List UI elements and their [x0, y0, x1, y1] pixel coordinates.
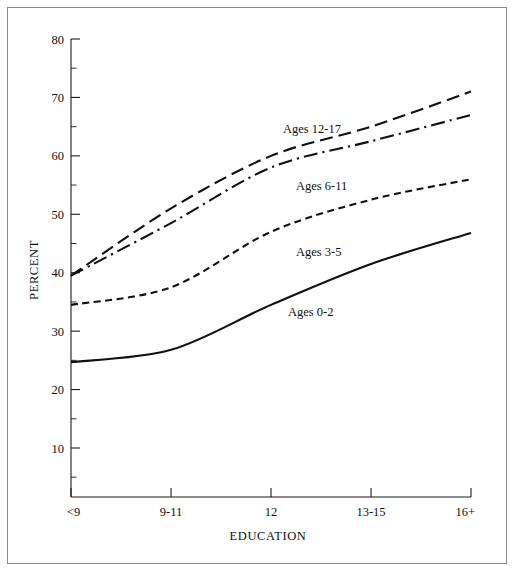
y-axis-ticks [71, 39, 80, 477]
x-axis-title: EDUCATION [230, 529, 307, 543]
series-lines [71, 92, 471, 363]
series-line-ages-12-17 [71, 92, 471, 276]
x-tick-label: 13-15 [356, 505, 385, 519]
x-tick-label: <9 [67, 505, 80, 519]
y-axis-tick-labels: 1020304050607080 [52, 33, 65, 456]
series-label-ages-6-11: Ages 6-11 [296, 179, 347, 193]
x-axis-ticks [71, 488, 471, 497]
line-chart-figure: 1020304050607080 <99-111213-1516+ Ages 1… [0, 0, 516, 576]
y-tick-label: 20 [52, 383, 65, 397]
series-label-ages-3-5: Ages 3-5 [296, 245, 341, 259]
series-label-ages-0-2: Ages 0-2 [288, 305, 333, 319]
series-label-ages-12-17: Ages 12-17 [283, 122, 341, 136]
figure-page: 1020304050607080 <99-111213-1516+ Ages 1… [0, 0, 516, 576]
y-axis-title: PERCENT [27, 240, 41, 300]
x-tick-label: 9-11 [160, 505, 182, 519]
y-tick-label: 80 [52, 33, 65, 47]
y-tick-label: 50 [52, 208, 65, 222]
x-tick-label: 12 [265, 505, 278, 519]
y-tick-label: 40 [52, 266, 65, 280]
y-tick-label: 30 [52, 325, 65, 339]
chart-canvas: 1020304050607080 <99-111213-1516+ Ages 1… [0, 0, 516, 576]
series-line-ages-3-5 [71, 179, 471, 305]
x-axis-tick-labels: <99-111213-1516+ [67, 505, 475, 519]
x-tick-label: 16+ [455, 505, 475, 519]
y-tick-label: 10 [52, 442, 65, 456]
y-tick-label: 70 [52, 91, 65, 105]
y-tick-label: 60 [52, 149, 65, 163]
